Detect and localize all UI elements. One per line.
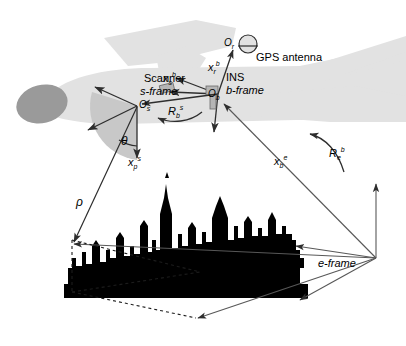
body-to-earth-rotation-label: Reb: [329, 146, 345, 161]
ground-swath-dashed: [72, 240, 200, 318]
scanner-axis-left: [95, 87, 137, 106]
ins-label: INS: [226, 72, 244, 83]
scanner-point-vector-label: xps: [128, 155, 141, 170]
laser-range-label: ρ: [76, 196, 83, 208]
gps-origin-symbol: O: [224, 37, 232, 48]
ins-origin-label: Ob: [208, 89, 220, 101]
ins-origin-symbol: O: [208, 88, 216, 99]
lidar-georeferencing-diagram: Scanner s-frame Os θ ρ INS b-frame Ob GP…: [0, 0, 406, 346]
earth-frame-label: e-frame: [318, 258, 356, 269]
scanner-axis-lower-left: [88, 106, 137, 130]
scan-angle-label: θ: [121, 135, 128, 147]
scanner-to-body-rotation-label: Rbs: [168, 104, 183, 119]
body-position-vector-label: xbe: [274, 154, 287, 169]
earth-frame-axes: [296, 184, 376, 300]
gps-origin-label: Or: [224, 38, 234, 50]
swath-edge-upper: [72, 240, 200, 272]
ins-frame-label: b-frame: [226, 85, 264, 96]
scanner-origin-subscript: s: [147, 105, 151, 112]
gps-antenna-label: GPS antenna: [256, 52, 322, 63]
gps-antenna-dome: [239, 35, 257, 53]
swath-edge-lower: [72, 292, 196, 318]
scanner-origin-label: Os: [139, 100, 150, 112]
scanner-origin-symbol: O: [139, 99, 147, 110]
gps-origin-subscript: r: [232, 43, 234, 50]
gps-lever-arm-vector-label: xrb: [208, 60, 220, 75]
geometry-layer: [0, 0, 406, 346]
laser-range-ray: [74, 107, 137, 242]
ins-origin-subscript: b: [216, 94, 220, 101]
scanner-frame-label: s-frame: [140, 86, 177, 97]
scanner-lever-arm-vector-label: xsb: [163, 71, 176, 86]
swath-edge-diagonal: [72, 272, 200, 292]
earth-to-body-vector: [224, 104, 376, 258]
